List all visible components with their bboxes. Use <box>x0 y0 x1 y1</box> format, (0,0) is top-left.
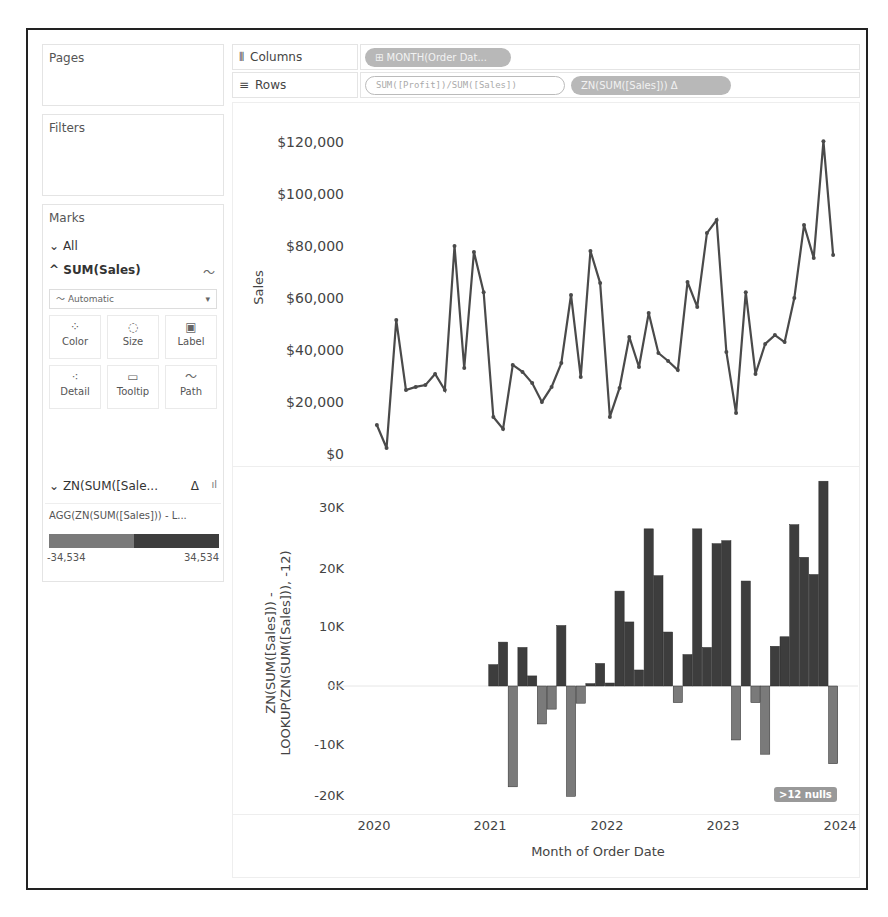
yoy-bar[interactable] <box>625 622 634 686</box>
sales-point[interactable] <box>695 305 699 309</box>
sales-point[interactable] <box>753 372 757 376</box>
yoy-bar[interactable] <box>819 481 828 686</box>
sales-point[interactable] <box>569 293 573 297</box>
sales-point[interactable] <box>676 368 680 372</box>
sales-point[interactable] <box>404 388 408 392</box>
sales-point[interactable] <box>686 280 690 284</box>
sales-point[interactable] <box>598 281 602 285</box>
yoy-bar[interactable] <box>741 581 750 686</box>
chart-canvas[interactable] <box>28 30 870 892</box>
yoy-bar[interactable] <box>664 632 673 686</box>
sales-point[interactable] <box>618 386 622 390</box>
sales-point[interactable] <box>588 249 592 253</box>
yoy-bar[interactable] <box>770 646 779 686</box>
sales-point[interactable] <box>666 359 670 363</box>
sales-point[interactable] <box>559 361 563 365</box>
sales-point[interactable] <box>491 415 495 419</box>
sales-point[interactable] <box>792 296 796 300</box>
yoy-bar[interactable] <box>683 655 692 686</box>
sales-point[interactable] <box>520 370 524 374</box>
yoy-bar[interactable] <box>731 686 740 740</box>
sales-point[interactable] <box>433 372 437 376</box>
yoy-bar[interactable] <box>751 686 760 703</box>
yoy-bar[interactable] <box>508 686 517 787</box>
sales-point[interactable] <box>423 383 427 387</box>
sales-point[interactable] <box>715 218 719 222</box>
yoy-bar[interactable] <box>528 676 537 686</box>
yoy-bar[interactable] <box>576 686 585 703</box>
sales-point[interactable] <box>744 290 748 294</box>
yoy-bar[interactable] <box>829 686 838 764</box>
sales-point[interactable] <box>656 351 660 355</box>
yoy-bar[interactable] <box>693 529 702 686</box>
yoy-bar[interactable] <box>673 686 682 703</box>
yoy-bar[interactable] <box>702 647 711 686</box>
sales-point[interactable] <box>550 385 554 389</box>
sales-point[interactable] <box>540 400 544 404</box>
sales-point[interactable] <box>375 423 379 427</box>
sales-point[interactable] <box>802 223 806 227</box>
yoy-bar[interactable] <box>722 541 731 686</box>
yoy-bar[interactable] <box>489 665 498 686</box>
yoy-bar[interactable] <box>498 642 507 686</box>
sales-point[interactable] <box>462 366 466 370</box>
yoy-bar[interactable] <box>596 663 605 686</box>
sales-point[interactable] <box>579 375 583 379</box>
yoy-bar[interactable] <box>615 591 624 686</box>
sales-point[interactable] <box>783 340 787 344</box>
sales-point[interactable] <box>511 363 515 367</box>
sales-point[interactable] <box>385 446 389 450</box>
tableau-worksheet: Pages Filters Marks ⌄ All ^ SUM(Sales) 〜… <box>26 28 868 890</box>
yoy-bar[interactable] <box>518 647 527 686</box>
yoy-bar[interactable] <box>761 686 770 754</box>
sales-point[interactable] <box>394 318 398 322</box>
sales-line[interactable] <box>377 141 833 448</box>
sales-point[interactable] <box>443 388 447 392</box>
sales-point[interactable] <box>724 350 728 354</box>
sales-point[interactable] <box>482 290 486 294</box>
yoy-bar[interactable] <box>644 529 653 686</box>
sales-point[interactable] <box>472 250 476 254</box>
sales-point[interactable] <box>763 342 767 346</box>
yoy-bar[interactable] <box>605 683 614 686</box>
yoy-bar[interactable] <box>809 575 818 686</box>
sales-point[interactable] <box>501 427 505 431</box>
sales-point[interactable] <box>647 311 651 315</box>
sales-point[interactable] <box>637 365 641 369</box>
yoy-bar[interactable] <box>712 544 721 686</box>
yoy-bar[interactable] <box>790 525 799 686</box>
yoy-bar[interactable] <box>634 670 643 686</box>
sales-point[interactable] <box>821 139 825 143</box>
sales-point[interactable] <box>773 333 777 337</box>
sales-point[interactable] <box>812 256 816 260</box>
sales-point[interactable] <box>705 231 709 235</box>
sales-point[interactable] <box>627 335 631 339</box>
yoy-bar[interactable] <box>566 686 575 796</box>
sales-point[interactable] <box>530 381 534 385</box>
yoy-bar[interactable] <box>799 557 808 686</box>
sales-point[interactable] <box>414 385 418 389</box>
yoy-bar[interactable] <box>547 686 556 709</box>
yoy-bar[interactable] <box>557 626 566 686</box>
yoy-bar[interactable] <box>780 637 789 686</box>
yoy-bar[interactable] <box>654 576 663 686</box>
sales-point[interactable] <box>831 253 835 257</box>
yoy-bar[interactable] <box>586 684 595 686</box>
sales-point[interactable] <box>453 244 457 248</box>
sales-point[interactable] <box>734 411 738 415</box>
sales-point[interactable] <box>608 415 612 419</box>
yoy-bar[interactable] <box>537 686 546 724</box>
